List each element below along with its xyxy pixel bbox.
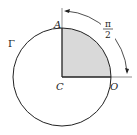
arrowhead-o-icon xyxy=(125,68,129,74)
label-o: O xyxy=(110,81,118,92)
arrowhead-a-icon xyxy=(64,9,70,13)
label-gamma: Γ xyxy=(8,38,15,49)
label-c: C xyxy=(56,81,64,92)
fraction-numerator: π xyxy=(105,19,111,29)
fraction-denominator: 2 xyxy=(105,30,111,40)
diagram-canvas: A C O Γ π 2 xyxy=(0,0,137,135)
label-a: A xyxy=(53,19,61,30)
